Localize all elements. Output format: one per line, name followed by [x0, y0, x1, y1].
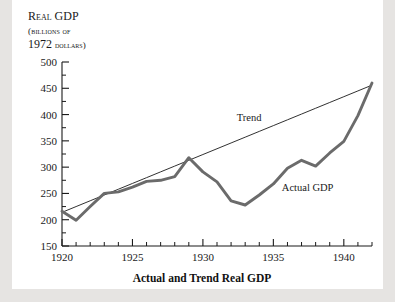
- axis-title-line-1: Real GDP: [28, 9, 79, 23]
- chart-sheet: Real GDP (billions of 1972 dollars) 1502…: [12, 0, 383, 289]
- real-gdp-line-chart: Real GDP (billions of 1972 dollars) 1502…: [12, 0, 383, 289]
- chart-title: Actual and Trend Real GDP: [133, 272, 272, 284]
- x-tick-label: 1920: [51, 251, 74, 263]
- annotation-trend-label: Trend: [237, 112, 262, 123]
- y-tick-label: 200: [41, 214, 58, 226]
- axis-title-line-3: 1972 dollars): [28, 37, 86, 51]
- y-tick-label: 500: [41, 56, 58, 68]
- y-tick-label: 250: [41, 187, 58, 199]
- x-tick-label: 1930: [192, 251, 215, 263]
- series-actual-gdp-line: [62, 83, 372, 220]
- x-tick-label: 1925: [121, 251, 144, 263]
- axes: [62, 62, 372, 246]
- annotation-actual-gdp-label: Actual GDP: [282, 182, 334, 193]
- x-tick-label: 1935: [262, 251, 285, 263]
- x-tick-label: 1940: [333, 251, 356, 263]
- y-axis-ticks: 150200250300350400450500: [41, 56, 70, 252]
- y-tick-label: 400: [41, 109, 58, 121]
- axis-title-line-2: (billions of: [28, 26, 71, 36]
- x-axis-ticks: 19201925193019351940: [51, 239, 372, 263]
- plot-area: Real GDP (billions of 1972 dollars) 1502…: [12, 0, 383, 289]
- y-tick-label: 350: [41, 135, 58, 147]
- y-tick-label: 300: [41, 161, 58, 173]
- y-tick-label: 450: [41, 82, 58, 94]
- chart-page: Real GDP (billions of 1972 dollars) 1502…: [0, 0, 395, 302]
